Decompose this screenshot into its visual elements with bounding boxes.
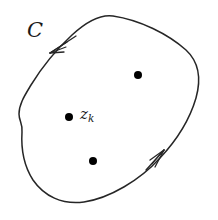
pole-symbol: z <box>80 105 88 123</box>
singular-point-upper-right <box>134 71 142 79</box>
singular-point-zk <box>65 113 73 121</box>
pole-label-zk: zk <box>80 107 94 124</box>
contour-figure: C zk <box>0 0 218 220</box>
singular-point-lower <box>89 157 97 165</box>
contour-label-c: C <box>27 20 43 41</box>
pole-subscript: k <box>88 112 94 124</box>
